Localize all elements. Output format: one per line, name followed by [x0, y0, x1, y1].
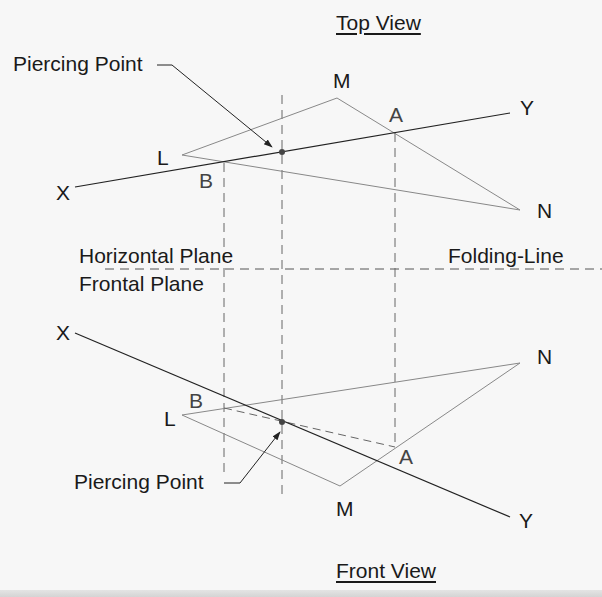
front-view-point-x: X [56, 322, 70, 343]
front-view-triangle-lmn [182, 363, 520, 486]
top-view-title: Top View [336, 12, 421, 33]
top-view-piercing-point-label: Piercing Point [13, 53, 143, 74]
diagram-canvas [0, 0, 602, 597]
scan-edge [0, 590, 602, 597]
top-view-point-n: N [537, 200, 552, 221]
top-view [75, 65, 520, 210]
front-view-title: Front View [336, 560, 436, 581]
top-view-point-y: Y [520, 97, 534, 118]
top-view-piercing-point [279, 149, 285, 155]
front-view-point-y: Y [519, 510, 533, 531]
front-view-point-m: M [336, 498, 354, 519]
front-view-point-a: A [399, 446, 413, 467]
front-view-piercing-point-label: Piercing Point [74, 471, 204, 492]
front-view-piercing-point [279, 419, 285, 425]
frontal-plane-label: Frontal Plane [79, 273, 204, 294]
front-view-hidden-ba [224, 408, 395, 447]
top-view-leader [157, 65, 272, 147]
folding-line-label: Folding-Line [448, 245, 564, 266]
top-view-line-xy [75, 113, 510, 187]
front-view-point-n: N [537, 346, 552, 367]
horizontal-plane-label: Horizontal Plane [79, 245, 233, 266]
front-view-point-b: B [189, 390, 203, 411]
top-view-point-a: A [389, 104, 403, 125]
front-view-point-l: L [164, 408, 176, 429]
top-view-point-x: X [56, 182, 70, 203]
top-view-point-b: B [199, 170, 213, 191]
top-view-point-m: M [333, 70, 351, 91]
piercing-point-diagram: Top View Front View Horizontal Plane Fro… [0, 0, 602, 597]
front-view-leader [224, 432, 280, 483]
top-view-point-l: L [157, 147, 169, 168]
